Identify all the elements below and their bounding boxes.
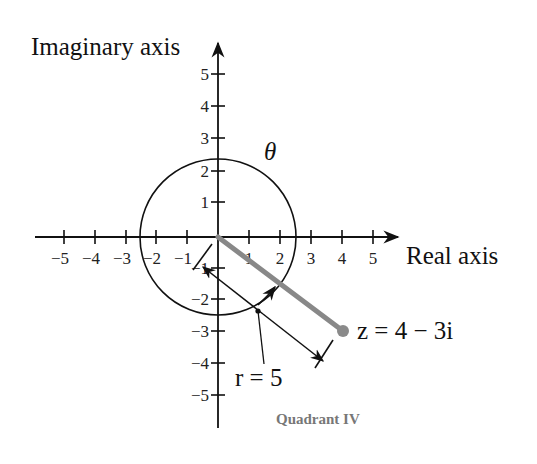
y-tick-label: −3 (191, 322, 209, 341)
r-dimension-arrow-start (203, 267, 263, 314)
r-dimension-end-cap-bottom (315, 340, 333, 368)
y-tick-label: 4 (201, 97, 210, 116)
real-axis-title: Real axis (406, 242, 498, 269)
r-leader-line (258, 311, 264, 364)
point-z-label: z = 4 − 3i (357, 317, 453, 344)
theta-arrow (258, 287, 275, 305)
modulus-label: r = 5 (235, 364, 282, 391)
y-tick-label: 1 (201, 193, 210, 212)
y-tick-label: 2 (201, 162, 210, 181)
point-z (337, 325, 349, 337)
r-dimension-arrow-end (263, 314, 323, 361)
quadrant-label: Quadrant IV (276, 411, 360, 427)
x-tick-label: 2 (276, 249, 285, 268)
y-tick-label: −2 (191, 290, 209, 309)
complex-plane-diagram: −5 −4 −3 −2 −1 1 2 3 4 5 5 4 3 2 1 −1 −2… (0, 0, 537, 464)
y-tick-label: −5 (191, 386, 209, 405)
y-tick-label: 3 (201, 129, 210, 148)
x-tick-label: −5 (51, 249, 69, 268)
x-tick-label: −4 (82, 249, 101, 268)
imaginary-axis-title: Imaginary axis (31, 33, 180, 60)
x-tick-label: 3 (307, 249, 316, 268)
x-tick-label: 5 (369, 249, 378, 268)
x-tick-label: 4 (338, 249, 347, 268)
y-tick-label: 5 (201, 65, 210, 84)
x-tick-label: −3 (113, 249, 131, 268)
theta-label: θ (264, 138, 276, 165)
x-tick-label: −1 (174, 249, 192, 268)
y-tick-label: −4 (191, 354, 210, 373)
x-tick-label: −2 (143, 249, 161, 268)
